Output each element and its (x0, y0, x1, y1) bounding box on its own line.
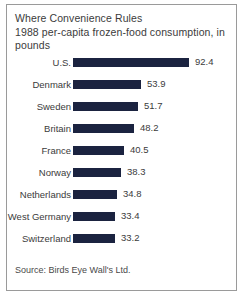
bar-row: Britain48.2 (7, 120, 236, 142)
bar-value-label: 34.8 (123, 188, 142, 200)
bar-track: 33.2 (73, 232, 234, 245)
bar-track: 38.3 (73, 166, 234, 179)
bar-category-label: Britain (44, 123, 71, 134)
bar-value-label: 53.9 (147, 78, 166, 90)
bar (73, 58, 189, 67)
chart-source: Source: Birds Eye Wall's Ltd. (15, 265, 130, 276)
bar-track: 53.9 (73, 78, 234, 91)
bar-value-label: 40.5 (130, 144, 149, 156)
bar-track: 40.5 (73, 144, 234, 157)
bar-value-label: 48.2 (140, 122, 159, 134)
bar (73, 124, 134, 133)
bar (73, 80, 141, 89)
bar-value-label: 38.3 (127, 166, 146, 178)
bar-category-label: West Germany (8, 211, 71, 222)
bar-row: Norway38.3 (7, 164, 236, 186)
bar-category-label: Denmark (32, 79, 71, 90)
bar-row: West Germany33.4 (7, 208, 236, 230)
bar-row: Denmark53.9 (7, 76, 236, 98)
bar-category-label: U.S. (53, 57, 71, 68)
bar-category-label: Switzerland (22, 233, 71, 244)
bar-track: 33.4 (73, 210, 234, 223)
chart-subtitle-line-1: 1988 per-capita frozen-food consumption,… (15, 26, 229, 40)
bar-category-label: Sweden (37, 101, 71, 112)
chart-subtitle-line-2: pounds (15, 39, 229, 53)
bar (73, 234, 115, 243)
bar-row: Sweden51.7 (7, 98, 236, 120)
bar (73, 146, 124, 155)
bar-track: 34.8 (73, 188, 234, 201)
bar-value-label: 92.4 (195, 56, 214, 68)
bar-category-label: Netherlands (20, 189, 71, 200)
bar-chart-plot: U.S.92.4Denmark53.9Sweden51.7Britain48.2… (7, 54, 236, 252)
bar (73, 168, 121, 177)
bar-value-label: 33.2 (121, 232, 140, 244)
bar-row: U.S.92.4 (7, 54, 236, 76)
bar-category-label: France (41, 145, 71, 156)
chart-card: Where Convenience Rules 1988 per-capita … (6, 4, 237, 291)
bar-row: France40.5 (7, 142, 236, 164)
chart-title: Where Convenience Rules (15, 12, 229, 26)
chart-title-block: Where Convenience Rules 1988 per-capita … (15, 12, 229, 53)
bar-row: Netherlands34.8 (7, 186, 236, 208)
bar-track: 92.4 (73, 56, 234, 69)
bar-track: 51.7 (73, 100, 234, 113)
bar-row: Switzerland33.2 (7, 230, 236, 252)
bar-value-label: 51.7 (144, 100, 163, 112)
bar-track: 48.2 (73, 122, 234, 135)
bar (73, 212, 115, 221)
bar (73, 102, 138, 111)
bar (73, 190, 117, 199)
bar-category-label: Norway (39, 167, 71, 178)
bar-value-label: 33.4 (121, 210, 140, 222)
